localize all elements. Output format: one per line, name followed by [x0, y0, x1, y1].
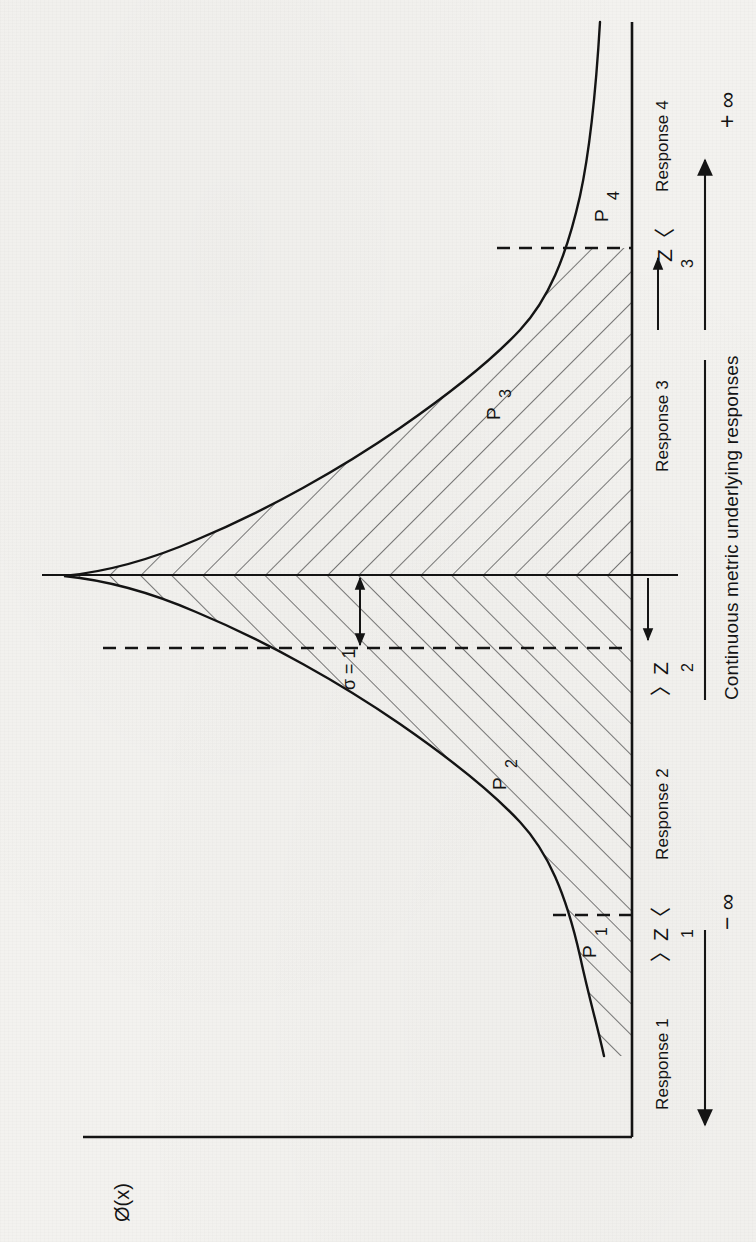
threshold-z3-subscript: 3	[680, 259, 696, 268]
negative-infinity-label: − ∞	[716, 894, 739, 930]
threshold-z1-bracket-left: 〉	[649, 941, 672, 962]
response-label-2: Response 2	[654, 768, 671, 860]
threshold-z2-subscript: 2	[680, 663, 696, 672]
threshold-z2-symbol: Z	[649, 662, 672, 675]
hatched-probability-regions	[0, 0, 756, 1242]
response-label-4: Response 4	[654, 100, 671, 192]
response-label-3: Response 3	[654, 380, 671, 472]
distribution-figure	[0, 0, 756, 1242]
threshold-z1-subscript: 1	[680, 929, 696, 938]
threshold-z3-bracket: 〈	[653, 228, 676, 249]
response-label-1: Response 1	[654, 1018, 671, 1110]
threshold-z1-bracket-right: 〈	[649, 907, 672, 928]
threshold-z3-symbol: Z	[653, 249, 676, 262]
figure-page: Ø(x) Continuous metric underlying respon…	[0, 0, 756, 1242]
sigma-label: σ = 1	[340, 648, 358, 690]
x-axis-label: Continuous metric underlying responses	[722, 355, 741, 700]
positive-infinity-label: + ∞	[716, 92, 739, 128]
threshold-z1-symbol: Z	[649, 928, 672, 941]
threshold-z2-bracket: 〉	[649, 675, 672, 696]
y-axis-label: Ø(x)	[112, 1183, 132, 1222]
